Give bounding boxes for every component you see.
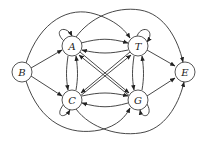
node-T: T	[128, 36, 148, 56]
node-E: E	[175, 62, 195, 82]
node-label-B: B	[17, 67, 25, 78]
edge-G-T	[142, 56, 144, 90]
edge-G-C	[82, 103, 128, 107]
edge-A-T	[81, 39, 128, 43]
edge-C-A	[76, 56, 78, 90]
node-C: C	[62, 90, 82, 110]
nodes: B A T C G E	[12, 36, 195, 110]
edge-T-G	[133, 56, 135, 90]
edge-A-E	[76, 9, 183, 62]
edges	[26, 9, 184, 134]
node-A: A	[62, 36, 82, 56]
node-label-G: G	[134, 95, 142, 106]
state-diagram: B A T C G E	[0, 0, 207, 144]
edge-C-E	[76, 82, 184, 134]
edge-A-G	[80, 52, 129, 93]
edge-C-G	[82, 93, 128, 96]
node-label-A: A	[67, 41, 75, 52]
edge-A-C	[67, 56, 69, 90]
edge-T-C	[81, 52, 130, 93]
edge-B-C	[31, 76, 62, 96]
edge-B-A	[31, 50, 62, 68]
edge-T-E	[147, 50, 175, 66]
node-B: B	[12, 62, 32, 82]
node-label-E: E	[180, 67, 189, 78]
edge-G-E	[147, 78, 175, 96]
edge-B-T	[26, 12, 130, 63]
node-G: G	[128, 90, 148, 110]
node-label-C: C	[68, 95, 76, 106]
edge-T-A	[82, 50, 128, 53]
